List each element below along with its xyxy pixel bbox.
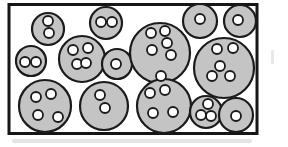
atom-dot bbox=[228, 43, 238, 53]
atom-dot bbox=[196, 110, 206, 120]
atom-dot bbox=[146, 28, 156, 38]
atom-dot bbox=[195, 14, 205, 24]
atom-dot bbox=[168, 107, 178, 117]
atom-dot bbox=[231, 111, 241, 121]
atom-dot bbox=[107, 17, 117, 27]
atom-dot bbox=[96, 17, 106, 27]
atom-dot bbox=[166, 50, 176, 60]
atom-dot bbox=[20, 57, 30, 67]
atom-dot bbox=[225, 71, 235, 81]
atom-dot bbox=[206, 111, 216, 121]
atom-dot bbox=[212, 44, 222, 54]
atom-dot bbox=[162, 38, 172, 48]
atom-dot bbox=[81, 58, 91, 68]
atom-dot bbox=[203, 99, 213, 109]
molecule-circle bbox=[19, 80, 71, 132]
atom-dot bbox=[46, 89, 56, 99]
atom-dot bbox=[43, 16, 53, 26]
atom-dot bbox=[31, 92, 41, 102]
atom-dot bbox=[160, 26, 170, 36]
atom-dot bbox=[53, 112, 63, 122]
atom-dot bbox=[207, 71, 217, 81]
scan-smudge bbox=[271, 50, 274, 64]
atom-dot bbox=[147, 45, 157, 55]
atom-dot bbox=[148, 108, 158, 118]
atom-dot bbox=[68, 45, 78, 55]
atom-dot bbox=[95, 90, 105, 100]
atom-dot bbox=[215, 61, 225, 71]
atom-dot bbox=[145, 88, 155, 98]
atom-dot bbox=[156, 71, 166, 81]
atom-dot bbox=[111, 59, 121, 69]
atom-dot bbox=[100, 103, 110, 113]
atom-dot bbox=[83, 43, 93, 53]
scan-shadow bbox=[12, 139, 252, 143]
atom-dot bbox=[33, 110, 43, 120]
atom-dot bbox=[160, 85, 170, 95]
particle-diagram-canvas bbox=[0, 0, 288, 147]
atom-dot bbox=[233, 15, 243, 25]
atom-dot bbox=[31, 57, 41, 67]
atom-dot bbox=[44, 28, 54, 38]
particle-diagram bbox=[0, 0, 288, 147]
